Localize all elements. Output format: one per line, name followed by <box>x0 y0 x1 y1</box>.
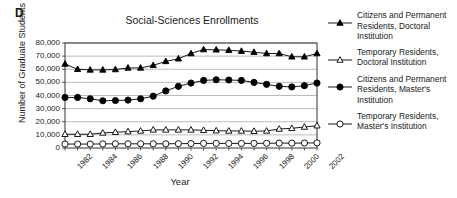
open-triangle-marker <box>75 131 81 137</box>
open-circle-marker <box>213 140 219 146</box>
open-circle-marker <box>138 141 144 147</box>
open-circle-marker <box>251 140 257 146</box>
open-triangle-marker <box>238 128 244 134</box>
filled-circle-marker <box>327 74 353 96</box>
filled-circle-marker <box>125 97 131 103</box>
open-triangle-marker <box>226 128 232 134</box>
legend-entry: Temporary Residents, Master's Institutio… <box>327 111 457 133</box>
open-triangle-marker <box>188 127 194 133</box>
open-circle-marker <box>87 141 93 147</box>
open-circle-marker <box>264 140 270 146</box>
open-triangle-marker <box>337 56 343 62</box>
filled-triangle-marker <box>125 65 131 71</box>
open-triangle-marker <box>175 127 181 133</box>
open-circle-marker <box>301 140 307 146</box>
open-circle-marker <box>327 111 353 133</box>
legend-label: Temporary Residents, Master's Institutio… <box>353 111 457 132</box>
legend-label: Temporary Residents, Doctoral Institutio… <box>353 47 457 68</box>
open-circle-marker <box>188 140 194 146</box>
open-triangle-marker <box>213 127 219 133</box>
open-triangle-marker <box>327 47 353 69</box>
filled-circle-marker <box>301 83 307 89</box>
filled-circle-marker <box>289 84 295 90</box>
open-circle-marker <box>175 141 181 147</box>
filled-circle-marker <box>251 79 257 85</box>
filled-circle-marker <box>100 98 106 104</box>
open-triangle-marker <box>251 128 257 134</box>
open-circle-marker <box>314 140 320 146</box>
open-triangle-marker <box>201 127 207 133</box>
open-triangle-marker <box>150 127 156 133</box>
legend-label: Citizens and Permanent Residents, Master… <box>353 74 457 106</box>
series-2 <box>62 77 320 104</box>
open-circle-marker <box>163 141 169 147</box>
open-circle-marker <box>201 140 207 146</box>
open-circle-marker <box>226 140 232 146</box>
filled-circle-marker <box>276 83 282 89</box>
filled-circle-marker <box>201 77 207 83</box>
filled-circle-marker <box>314 80 320 86</box>
filled-circle-marker <box>150 93 156 99</box>
filled-triangle-marker <box>201 46 207 52</box>
filled-circle-marker <box>175 83 181 89</box>
open-circle-marker <box>112 141 118 147</box>
open-circle-marker <box>337 120 343 126</box>
filled-circle-marker <box>112 97 118 103</box>
filled-circle-marker <box>213 77 219 83</box>
open-circle-marker <box>150 141 156 147</box>
filled-circle-marker <box>62 94 68 100</box>
open-triangle-marker <box>62 131 68 137</box>
filled-triangle-marker <box>276 50 282 56</box>
filled-circle-marker <box>226 77 232 83</box>
filled-triangle-marker <box>62 61 68 67</box>
filled-triangle-marker <box>327 10 353 32</box>
open-circle-marker <box>276 140 282 146</box>
legend-entry: Temporary Residents, Doctoral Institutio… <box>327 47 457 69</box>
open-circle-marker <box>75 141 81 147</box>
series-3 <box>62 140 320 147</box>
filled-triangle-marker <box>337 20 343 26</box>
open-triangle-marker <box>314 122 320 128</box>
open-circle-marker <box>238 140 244 146</box>
open-triangle-marker <box>163 127 169 133</box>
filled-circle-marker <box>188 80 194 86</box>
filled-triangle-marker <box>213 46 219 52</box>
open-circle-marker <box>125 141 131 147</box>
open-circle-marker <box>62 141 68 147</box>
legend-entry: Citizens and Permanent Residents, Doctor… <box>327 10 457 42</box>
series-0 <box>62 46 320 72</box>
chart-legend: Citizens and Permanent Residents, Doctor… <box>327 10 457 138</box>
filled-circle-marker <box>138 96 144 102</box>
filled-triangle-marker <box>314 50 320 56</box>
series-1 <box>62 122 320 136</box>
open-circle-marker <box>289 140 295 146</box>
legend-label: Citizens and Permanent Residents, Doctor… <box>353 10 457 42</box>
filled-circle-marker <box>75 94 81 100</box>
filled-circle-marker <box>264 81 270 87</box>
legend-entry: Citizens and Permanent Residents, Master… <box>327 74 457 106</box>
filled-circle-marker <box>163 88 169 94</box>
figure-panel: D Social-Sciences Enrollments Number of … <box>0 0 457 198</box>
open-circle-marker <box>100 141 106 147</box>
filled-circle-marker <box>238 77 244 83</box>
filled-triangle-marker <box>226 47 232 53</box>
filled-circle-marker <box>337 84 343 90</box>
filled-circle-marker <box>87 96 93 102</box>
